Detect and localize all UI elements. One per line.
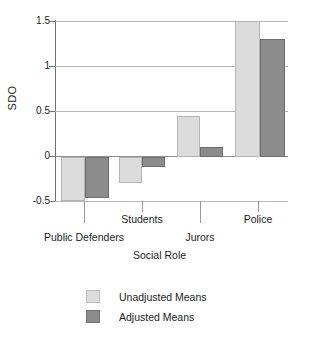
y-tick-label-5: -0.5: [16, 196, 50, 206]
chart-legend: Unadjusted Means Adjusted Means: [86, 288, 276, 328]
x-tick-police: [258, 201, 259, 212]
x-tick-jurors: [200, 201, 201, 223]
legend-swatch-adjusted: [86, 310, 100, 323]
bar-police-unadjusted: [235, 21, 260, 157]
bar-public-defenders-unadjusted: [61, 157, 85, 201]
y-tick-label-2: 1: [16, 61, 50, 71]
legend-swatch-unadjusted: [86, 290, 100, 303]
x-label-police: Police: [218, 213, 298, 225]
gridline-neg-0-5: [55, 201, 288, 202]
x-label-students: Students: [102, 213, 182, 225]
bar-jurors-adjusted: [200, 147, 223, 157]
x-tick-students: [142, 201, 143, 212]
bar-public-defenders-adjusted: [85, 157, 109, 198]
legend-label-unadjusted: Unadjusted Means: [119, 291, 207, 303]
y-tick-label-1: 1.5: [16, 16, 50, 26]
bar-jurors-unadjusted: [177, 116, 200, 157]
legend-item-unadjusted-means: Unadjusted Means: [86, 288, 276, 305]
bar-police-adjusted: [260, 39, 285, 157]
plot-area: [55, 21, 288, 201]
x-label-jurors: Jurors: [160, 231, 240, 243]
x-axis-title: Social Role: [0, 249, 319, 261]
y-axis-tick-labels: 1.5 1 0.5 0 -0.5: [14, 0, 50, 341]
bar-chart-figure: SDO 1.5 1 0.5 0 -0.5 Students Police Pub…: [0, 0, 319, 341]
x-tick-public-defenders: [84, 201, 85, 223]
y-tick-label-4: 0: [16, 151, 50, 161]
legend-label-adjusted: Adjusted Means: [119, 311, 194, 323]
x-label-public-defenders: Public Defenders: [24, 231, 144, 243]
bar-students-adjusted: [142, 157, 165, 167]
legend-item-adjusted-means: Adjusted Means: [86, 308, 276, 325]
bar-students-unadjusted: [119, 157, 142, 183]
y-tick-label-3: 0.5: [16, 106, 50, 116]
